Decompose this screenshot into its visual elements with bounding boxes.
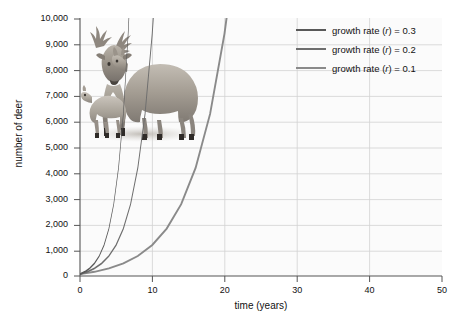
x-tick-label: 0	[60, 285, 100, 295]
legend-item-r-0-3: growth rate (r) = 0.3	[296, 24, 416, 36]
y-tick-label: 2,000	[26, 219, 68, 229]
x-tick-label: 20	[205, 285, 245, 295]
legend-suffix: ) = 0.3	[389, 25, 416, 36]
x-tick-label: 30	[277, 285, 317, 295]
legend-swatch-r-0-2	[296, 48, 326, 50]
legend-label-r-0-2: growth rate (r) = 0.2	[332, 44, 416, 55]
x-tick-marks	[80, 276, 442, 282]
chart-figure: 10,000 9,000 8,000 7,000 6,000 5,000 4,0…	[0, 0, 463, 321]
y-tick-marks	[74, 19, 80, 276]
x-tick-label: 40	[350, 285, 390, 295]
legend-label-r-0-1: growth rate (r) = 0.1	[332, 63, 416, 74]
y-tick-label: 1,000	[26, 245, 68, 255]
y-tick-label: 6,000	[26, 116, 68, 126]
y-tick-label: 8,000	[26, 65, 68, 75]
chart-legend: growth rate (r) = 0.3 growth rate (r) = …	[296, 24, 416, 74]
y-tick-label: 0	[26, 270, 68, 280]
y-tick-label: 5,000	[26, 142, 68, 152]
legend-item-r-0-1: growth rate (r) = 0.1	[296, 62, 416, 74]
legend-label-r-0-3: growth rate (r) = 0.3	[332, 25, 416, 36]
y-tick-label: 4,000	[26, 168, 68, 178]
y-tick-label: 9,000	[26, 39, 68, 49]
legend-prefix: growth rate (	[332, 63, 385, 74]
legend-swatch-r-0-1	[296, 67, 326, 69]
legend-suffix: ) = 0.1	[389, 63, 416, 74]
x-tick-label: 50	[422, 285, 462, 295]
legend-item-r-0-2: growth rate (r) = 0.2	[296, 43, 416, 55]
x-axis-label: time (years)	[80, 300, 442, 311]
x-tick-label: 10	[132, 285, 172, 295]
y-tick-label: 3,000	[26, 194, 68, 204]
y-axis-label: number of deer	[13, 79, 24, 189]
legend-prefix: growth rate (	[332, 25, 385, 36]
y-tick-label: 7,000	[26, 90, 68, 100]
legend-swatch-r-0-3	[296, 29, 326, 31]
legend-prefix: growth rate (	[332, 44, 385, 55]
y-tick-label: 10,000	[26, 13, 68, 23]
legend-suffix: ) = 0.2	[389, 44, 416, 55]
